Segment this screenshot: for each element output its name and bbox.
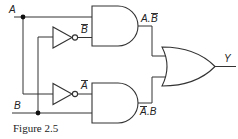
not-b-label: B [81, 24, 88, 35]
junction-dot-b [36, 111, 41, 116]
inversion-bubble-icon [72, 91, 77, 96]
and-top-output-label-prefix: A. [140, 13, 150, 24]
inverter-b: B [53, 24, 92, 48]
logic-circuit-diagram: A B B A A. B A [0, 0, 238, 139]
not-a-label: A [80, 80, 88, 91]
and-gate-bottom: A .B [92, 77, 167, 123]
and-bottom-output-label-suffix: .B [147, 106, 157, 117]
input-b: B [12, 37, 92, 115]
input-a: A [8, 4, 92, 94]
and-bottom-output-label-bar: A [139, 106, 147, 117]
output-y-label: Y [224, 53, 232, 64]
input-a-label: A [8, 4, 16, 15]
or-gate: Y [162, 47, 236, 86]
and-top-output-label-bar: B [151, 13, 158, 24]
input-b-label: B [14, 100, 21, 111]
inversion-bubble-icon [72, 35, 77, 40]
junction-dot-a [21, 15, 26, 20]
inverter-a: A [53, 80, 92, 105]
and-gate-top: A. B [92, 6, 167, 56]
figure-caption: Figure 2.5 [13, 122, 59, 134]
